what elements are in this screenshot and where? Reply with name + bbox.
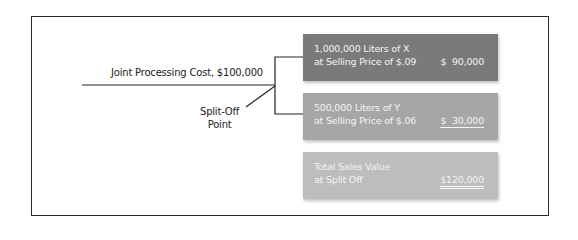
split-bracket: [275, 57, 303, 114]
total-sales-desc: Total Sales Value at Split Off: [314, 160, 390, 186]
product-x-desc: 1,000,000 Liters of X at Selling Price o…: [314, 42, 416, 68]
product-y-price: at Selling Price of $.06: [314, 114, 416, 127]
total-sales-line2: at Split Off: [314, 173, 390, 186]
product-x-amount: $ 90,000: [440, 55, 484, 68]
product-x-price: at Selling Price of $.09: [314, 55, 416, 68]
split-off-label: Split-Off Point: [200, 105, 239, 131]
split-off-line1: Split-Off: [200, 105, 239, 118]
total-sales-line1: Total Sales Value: [314, 160, 390, 173]
product-y-box: 500,000 Liters of Y at Selling Price of …: [303, 93, 498, 140]
split-off-line2: Point: [200, 118, 239, 131]
joint-cost-label: Joint Processing Cost, $100,000: [111, 67, 263, 78]
product-y-desc: 500,000 Liters of Y at Selling Price of …: [314, 101, 416, 127]
product-x-quantity: 1,000,000 Liters of X: [314, 42, 416, 55]
product-y-amount: $ 30,000: [440, 114, 484, 128]
product-x-box: 1,000,000 Liters of X at Selling Price o…: [303, 34, 498, 81]
split-off-pointer: [246, 86, 275, 107]
product-y-quantity: 500,000 Liters of Y: [314, 101, 416, 114]
total-sales-box: Total Sales Value at Split Off $120,000: [303, 152, 498, 199]
total-sales-amount: $120,000: [440, 173, 484, 189]
